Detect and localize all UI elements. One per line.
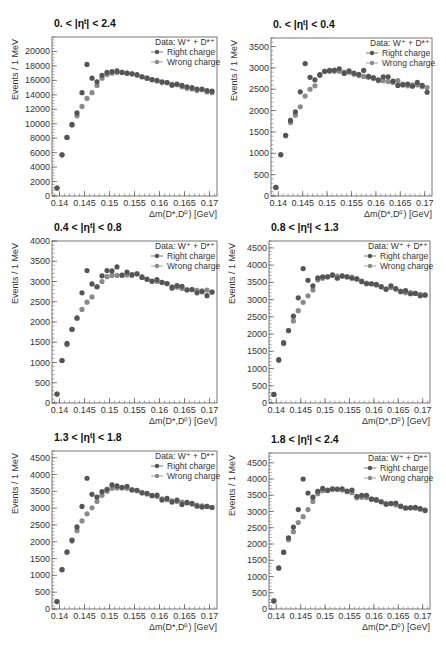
y-axis-label: Events / 1 MeV [10, 243, 20, 304]
series-wrong-charge [273, 69, 429, 190]
x-tick-label: 0.165 [387, 611, 410, 621]
y-tick-label: 0 [45, 398, 50, 408]
legend-marker-icon [155, 474, 159, 478]
x-tick-label: 0.15 [316, 611, 334, 621]
y-tick-label: 2500 [249, 84, 269, 94]
y-tick-label: 1500 [249, 127, 269, 137]
x-tick-label: 0.14 [51, 405, 69, 415]
y-tick-label: 4000 [30, 236, 50, 246]
y-tick-label: 1000 [249, 148, 269, 158]
y-tick-label: 14000 [25, 90, 50, 100]
legend-header: Data: W⁺ + D*⁺ [155, 37, 215, 47]
legend-entry: Wrong charge [167, 261, 221, 271]
y-tick-label: 3000 [30, 277, 50, 287]
y-tick-label: 3500 [247, 277, 267, 287]
x-tick-label: 0.145 [289, 611, 312, 621]
x-tick-label: 0.145 [73, 405, 96, 415]
y-tick-label: 2000 [249, 106, 269, 116]
x-tick-label: 0.17 [416, 198, 434, 208]
legend-header: Data: W⁺ + D*⁺ [155, 241, 215, 251]
plot-2: 0.4 < |ηᵗ| < 0.8050010001500200025003000… [0, 210, 223, 425]
panel-0: 0. < |ηᵗ| < 2.40200040006000800010000120… [0, 0, 223, 215]
panel-4: 1.3 < |ηᵗ| < 1.8050010001500200025003000… [0, 425, 223, 646]
y-tick-label: 500 [35, 587, 50, 597]
legend-marker-icon [370, 61, 374, 65]
legend-marker-icon [370, 51, 374, 55]
y-tick-label: 0 [262, 604, 267, 614]
plot-3: 0.8 < |ηᵗ| < 1.3050010001500200025003000… [223, 210, 446, 425]
x-tick-label: 0.16 [365, 405, 383, 415]
y-tick-label: 3500 [249, 42, 269, 52]
legend-marker-icon [368, 476, 372, 480]
y-tick-label: 4500 [30, 453, 50, 463]
x-tick-label: 0.155 [123, 198, 146, 208]
y-tick-label: 1000 [247, 364, 267, 374]
plot-4: 1.3 < |ηᵗ| < 1.8050010001500200025003000… [0, 425, 223, 646]
x-tick-label: 0.165 [173, 405, 196, 415]
x-tick-label: 0.16 [365, 611, 383, 621]
y-tick-label: 0 [262, 398, 267, 408]
x-tick-label: 0.155 [338, 611, 361, 621]
x-tick-label: 0.145 [289, 405, 312, 415]
legend: Data: W⁺ + D*⁺Right chargeWrong charge [151, 241, 221, 271]
plot-title: 0.4 < |ηᵗ| < 0.8 [54, 221, 122, 233]
legend-marker-icon [155, 60, 159, 64]
series-right-charge [273, 61, 429, 190]
y-tick-label: 3000 [30, 503, 50, 513]
legend-entry: Right charge [167, 461, 215, 471]
x-tick-label: 0.14 [268, 611, 286, 621]
plot-title: 0.8 < |ηᵗ| < 1.3 [271, 221, 339, 233]
x-tick-label: 0.155 [340, 198, 363, 208]
plot-5: 1.8 < |ηᵗ| < 2.4050010001500200025003000… [223, 425, 446, 646]
y-tick-label: 2000 [30, 177, 50, 187]
y-tick-label: 2500 [247, 523, 267, 533]
legend-header: Data: W⁺ + D*⁺ [368, 241, 428, 251]
y-tick-label: 4000 [30, 162, 50, 172]
y-tick-label: 500 [254, 170, 269, 180]
x-tick-label: 0.165 [387, 405, 410, 415]
y-tick-label: 3500 [30, 486, 50, 496]
x-tick-label: 0.15 [318, 198, 336, 208]
x-tick-label: 0.16 [151, 405, 169, 415]
series-right-charge [54, 264, 214, 396]
x-tick-label: 0.17 [414, 405, 432, 415]
legend-marker-icon [368, 254, 372, 258]
y-tick-label: 3000 [247, 507, 267, 517]
legend-entry: Wrong charge [167, 57, 221, 67]
y-tick-label: 8000 [30, 133, 50, 143]
y-tick-label: 18000 [25, 61, 50, 71]
legend: Data: W⁺ + D*⁺Right chargeWrong charge [366, 38, 436, 68]
x-tick-label: 0.155 [123, 405, 146, 415]
y-tick-label: 1500 [30, 337, 50, 347]
panel-1: 0. < |ηᵗ| < 0.40500100015002000250030003… [223, 0, 446, 215]
y-tick-label: 1000 [30, 358, 50, 368]
legend: Data: W⁺ + D*⁺Right chargeWrong charge [151, 37, 221, 67]
x-tick-label: 0.14 [268, 405, 286, 415]
x-tick-label: 0.15 [101, 611, 119, 621]
x-tick-label: 0.15 [101, 198, 119, 208]
y-tick-label: 2000 [30, 537, 50, 547]
legend-entry: Wrong charge [382, 58, 436, 68]
panel-2: 0.4 < |ηᵗ| < 0.8050010001500200025003000… [0, 210, 223, 425]
y-tick-label: 0 [264, 191, 269, 201]
series-wrong-charge [271, 487, 427, 604]
y-tick-label: 4500 [247, 243, 267, 253]
x-tick-label: 0.16 [151, 198, 169, 208]
legend-entry: Wrong charge [380, 261, 434, 271]
legend-entry: Right charge [380, 251, 428, 261]
legend-entry: Right charge [380, 463, 428, 473]
y-tick-label: 2000 [30, 317, 50, 327]
y-tick-label: 4500 [247, 458, 267, 468]
x-tick-label: 0.155 [338, 405, 361, 415]
y-tick-label: 500 [35, 378, 50, 388]
plot-0: 0. < |ηᵗ| < 2.40200040006000800010000120… [0, 0, 223, 215]
y-tick-label: 3000 [249, 63, 269, 73]
x-tick-label: 0.165 [173, 611, 196, 621]
y-tick-label: 1000 [247, 572, 267, 582]
series-right-charge [54, 62, 214, 191]
x-tick-label: 0.145 [73, 611, 96, 621]
y-tick-label: 0 [45, 191, 50, 201]
x-tick-label: 0.17 [201, 405, 219, 415]
plot-title: 1.3 < |ηᵗ| < 1.8 [54, 431, 122, 443]
y-tick-label: 0 [45, 604, 50, 614]
